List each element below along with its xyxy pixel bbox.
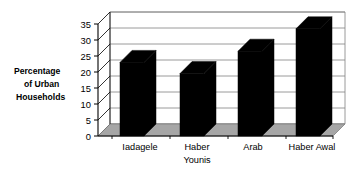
bar-iadagele-side (144, 50, 156, 136)
x-category-label-haber-younis-line-1: Haber (184, 142, 209, 152)
bar-arab-front (238, 51, 262, 136)
y-tick-label-25: 25 (81, 51, 91, 62)
y-axis-title-line-3: Households (16, 92, 65, 102)
bar-iadagele-front (120, 62, 144, 136)
bar-haber-younis-front (180, 74, 204, 136)
bar-haber-awal-side (320, 17, 332, 136)
y-tick-label-15: 15 (81, 83, 91, 94)
chart-canvas: 35 30 25 20 15 10 5 0 Percentage of Urba… (0, 0, 358, 173)
bar-arab-side (262, 39, 274, 136)
bar-haber-younis-side (204, 62, 216, 136)
y-axis-title-line-1: Percentage (14, 66, 61, 76)
y-tick-label-35: 35 (81, 19, 91, 30)
bar-arab (238, 39, 274, 136)
x-category-label-haber-younis-line-2: Younis (183, 155, 211, 165)
x-category-label-haber-awal: Haber Awal (289, 142, 336, 152)
y-tick-label-5: 5 (86, 115, 91, 126)
bar-iadagele (120, 50, 156, 136)
bar-haber-awal (296, 17, 332, 136)
y-tick-label-0: 0 (86, 131, 91, 142)
y-tick-label-20: 20 (81, 67, 91, 78)
bar-haber-awal-front (296, 29, 320, 136)
y-axis-title-line-2: of Urban (24, 79, 59, 89)
x-category-label-iadagele: Iadagele (122, 142, 157, 152)
y-tick-label-30: 30 (81, 35, 91, 46)
x-category-label-arab: Arab (243, 142, 262, 152)
bar-chart: 35 30 25 20 15 10 5 0 Percentage of Urba… (0, 0, 358, 173)
y-tick-label-10: 10 (81, 99, 91, 110)
bar-haber-younis (180, 62, 216, 136)
